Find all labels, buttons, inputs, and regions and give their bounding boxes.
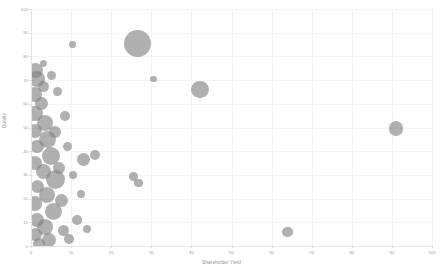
data-point-bubble[interactable] [77,190,86,199]
data-point-bubble[interactable] [77,153,90,166]
x-tick-label: 90 [382,250,402,255]
data-point-bubble[interactable] [63,142,72,151]
data-point-bubble[interactable] [53,87,62,96]
x-tick-label: 30 [141,250,161,255]
y-tick-mark [29,33,31,34]
data-point-bubble[interactable] [64,234,74,244]
y-tick-label: 70 [8,78,28,83]
data-point-bubble[interactable] [31,140,44,154]
x-tick-label: 100 [422,250,442,255]
y-tick-label: 30 [8,172,28,177]
y-tick-mark [29,151,31,152]
y-axis-title: Quality [2,101,7,141]
bubble-chart: 0102030405060708090100 01020304050607080… [0,0,443,275]
data-point-bubble[interactable] [40,60,47,67]
x-tick-label: 0 [21,250,41,255]
y-tick-label: 20 [8,196,28,201]
data-point-bubble[interactable] [49,126,61,138]
x-tick-label: 40 [181,250,201,255]
y-tick-mark [29,56,31,57]
y-tick-mark [29,222,31,223]
plot-area [31,9,432,246]
data-point-bubble[interactable] [60,111,70,121]
y-tick-label: 0 [8,244,28,249]
y-tick-mark [29,199,31,200]
x-tick-label: 60 [262,250,282,255]
data-point-bubble[interactable] [90,150,100,160]
x-tick-mark [352,246,353,248]
data-point-bubble[interactable] [31,196,42,211]
x-tick-mark [312,246,313,248]
data-point-bubble[interactable] [389,121,404,136]
data-point-bubble[interactable] [134,179,143,188]
y-tick-label: 10 [8,220,28,225]
data-point-bubble[interactable] [282,227,293,238]
x-tick-mark [272,246,273,248]
data-point-bubble[interactable] [33,238,45,246]
y-tick-label: 50 [8,125,28,130]
data-point-bubble[interactable] [72,215,82,225]
data-points-layer [31,9,432,246]
data-point-bubble[interactable] [124,30,152,58]
y-tick-label: 90 [8,30,28,35]
data-point-bubble[interactable] [69,171,77,179]
x-tick-mark [31,246,32,248]
data-point-bubble[interactable] [69,41,76,48]
x-tick-label: 20 [101,250,121,255]
x-tick-mark [111,246,112,248]
x-tick-label: 80 [342,250,362,255]
gridline-vertical [432,9,433,246]
y-axis-line [31,9,32,247]
data-point-bubble[interactable] [150,76,157,83]
x-tick-mark [71,246,72,248]
x-tick-label: 50 [222,250,242,255]
x-tick-mark [392,246,393,248]
x-tick-mark [191,246,192,248]
y-tick-label: 100 [8,7,28,12]
y-tick-mark [29,175,31,176]
x-tick-label: 70 [302,250,322,255]
data-point-bubble[interactable] [47,71,56,80]
x-tick-mark [232,246,233,248]
data-point-bubble[interactable] [191,81,209,99]
data-point-bubble[interactable] [55,194,68,207]
x-tick-mark [151,246,152,248]
y-tick-mark [29,80,31,81]
y-tick-mark [29,9,31,10]
data-point-bubble[interactable] [83,225,91,233]
y-tick-label: 40 [8,149,28,154]
x-axis-title: Shareholder Yield [0,260,443,265]
x-tick-label: 10 [61,250,81,255]
y-tick-mark [29,104,31,105]
y-tick-label: 80 [8,54,28,59]
y-tick-label: 60 [8,101,28,106]
data-point-bubble[interactable] [53,162,65,174]
y-tick-mark [29,128,31,129]
x-tick-mark [432,246,433,248]
